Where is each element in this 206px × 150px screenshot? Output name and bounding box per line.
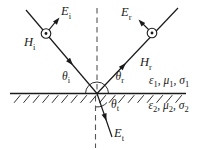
theta-transmitted-label: θt	[111, 99, 119, 111]
arrowheads-group	[45, 16, 154, 122]
wave-incidence-figure: Ei Hi Er Hr Et θi θr θt ε1, μ1, σ1 ε2, μ…	[0, 0, 206, 150]
medium2-mu: , μ	[157, 99, 169, 111]
h-reflected-subscript: r	[149, 62, 152, 72]
e-incident-subscript: i	[69, 11, 71, 21]
e-incident-symbol: E	[61, 4, 69, 18]
theta-incident-label: θi	[62, 71, 70, 83]
h-incident-label: Hi	[24, 36, 35, 49]
transmitted-ray-arrowhead	[102, 113, 109, 122]
e-reflected-subscript: r	[129, 12, 132, 22]
field-out-of-page-dot	[45, 32, 48, 35]
e-reflected-symbol: E	[121, 5, 129, 19]
medium2-properties-label: ε2, μ2, σ2	[149, 100, 189, 112]
e-incident-arrow-shaft	[49, 22, 56, 30]
h-reflected-symbol: H	[140, 55, 149, 69]
medium1-sigma-sub: 1	[185, 79, 189, 89]
field-out-of-page-dot	[151, 32, 154, 35]
ray-geometry-group	[10, 8, 186, 137]
medium2-sigma: , σ	[173, 99, 184, 111]
medium2-sigma-sub: 2	[185, 104, 189, 114]
theta-incident-subscript: i	[68, 75, 70, 85]
theta-transmitted-subscript: t	[117, 103, 119, 113]
e-transmitted-symbol: E	[114, 126, 122, 140]
e-transmitted-label: Et	[114, 127, 124, 140]
medium1-mu: , μ	[158, 74, 170, 86]
theta-reflected-subscript: r	[121, 75, 124, 85]
e-incident-label: Ei	[61, 5, 71, 18]
medium1-sigma: , σ	[174, 74, 185, 86]
medium1-properties-label: ε1, μ1, σ1	[149, 75, 189, 87]
h-reflected-label: Hr	[140, 56, 152, 69]
normal-line-group	[96, 8, 98, 148]
h-incident-symbol: H	[24, 35, 33, 49]
theta-reflected-label: θr	[116, 71, 125, 83]
h-incident-subscript: i	[33, 42, 35, 52]
e-transmitted-subscript: t	[122, 133, 124, 143]
e-reflected-label: Er	[121, 6, 131, 19]
